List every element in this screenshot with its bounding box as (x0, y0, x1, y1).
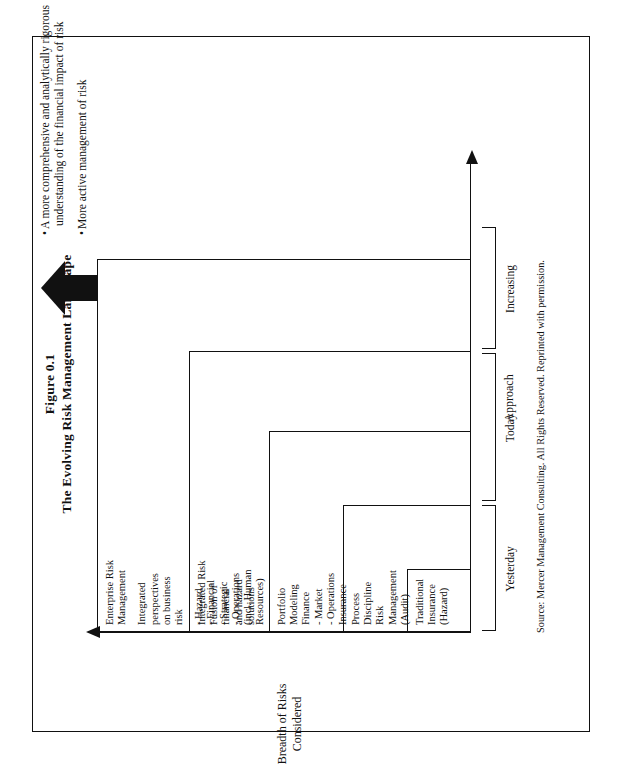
y-axis-title: Breadth of Risks Considered (275, 649, 305, 767)
x-tick-label-today: Today (504, 355, 516, 501)
stage-line-4-2: and hazard (233, 357, 245, 625)
stage-heading-5: Enterprise Risk (104, 265, 116, 625)
stage-line-4-1: financial (220, 357, 232, 625)
stage-line-5-2: Integrated (136, 265, 148, 625)
x-bracket-today (482, 353, 496, 501)
stage-heading-1: Traditional (414, 575, 426, 625)
stage-box-traditional-insurance: Traditional Insurance (Hazard) (407, 569, 471, 633)
figure-stage: Figure 0.1 The Evolving Risk Management … (35, 39, 587, 729)
conclusion-arrow-icon (41, 261, 97, 315)
stage-line-2-0: Discipline (362, 511, 374, 625)
stage-line-3-3: - Operations (325, 437, 337, 625)
stage-label-process-discipline: Process Discipline Risk Management (Audi… (350, 511, 411, 625)
stage-label-traditional-insurance: Traditional Insurance (Hazard) (414, 575, 451, 625)
x-bracket-increasing (482, 227, 496, 349)
stage-line-1-0: Insurance (426, 575, 438, 625)
arrow-head-icon (41, 261, 65, 315)
stage-line-3-1: Finance (300, 437, 312, 625)
x-tick-label-increasing: Increasing (504, 229, 516, 349)
y-axis-title-line1: Breadth of Risks (275, 684, 289, 765)
conclusion-bullet-2: More active management of risk (76, 0, 90, 235)
source-note: Source: Mercer Management Consulting. Al… (535, 260, 546, 633)
stage-line-5-3: perspectives (149, 265, 161, 625)
stage-line-2-1: Risk (374, 511, 386, 625)
stage-line-4-3: solutions (245, 357, 257, 625)
x-axis-arrowhead-icon (466, 150, 478, 164)
stage-line-2-2: Management (387, 511, 399, 625)
stage-heading-4: Integrated Risk (196, 357, 208, 625)
stage-line-4-0: Fusion of (208, 357, 220, 625)
stage-label-portfolio-modeling: Portfolio Modeling Finance - Market - Op… (276, 437, 349, 625)
y-axis-title-line2: Considered (290, 697, 304, 752)
arrow-shaft-icon (63, 275, 97, 301)
stage-line-3-2: - Market (313, 437, 325, 625)
scanned-page: Figure 0.1 The Evolving Risk Management … (0, 0, 618, 767)
x-bracket-yesterday (482, 505, 496, 631)
stage-line-5-0: Management (116, 265, 128, 625)
conclusion-list: A more comprehensive and analytically ri… (39, 0, 100, 235)
figure-border: Figure 0.1 The Evolving Risk Management … (32, 36, 590, 732)
stage-line-1-1: (Hazard) (438, 575, 450, 625)
stage-line-5-5: risk (173, 265, 185, 625)
stage-label-integrated-risk: Integrated Risk Fusion of financial and … (196, 357, 257, 625)
stage-line-3-0: Modeling (288, 437, 300, 625)
x-tick-label-yesterday: Yesterday (504, 507, 516, 631)
stage-line-5-4: on business (161, 265, 173, 625)
stage-heading-3: Portfolio (276, 437, 288, 625)
diagram-plot-area: Breadth of Risks Considered Approach Ent… (99, 163, 471, 633)
stage-heading-2: Process (350, 511, 362, 625)
conclusion-bullet-1: A more comprehensive and analytically ri… (39, 0, 66, 235)
